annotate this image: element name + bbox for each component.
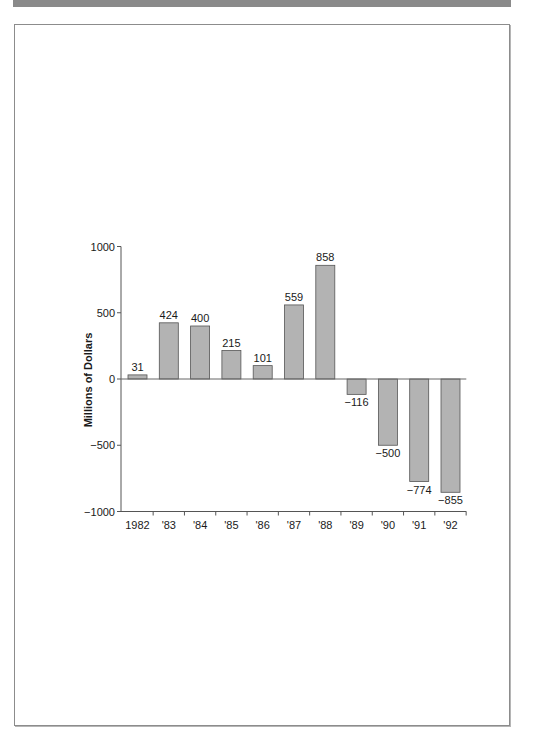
x-tick-label: '89 [349,519,363,531]
bar-value-label: 858 [316,251,334,263]
bar-value-label: −855 [438,494,463,506]
x-tick-label: '90 [381,519,395,531]
bar-value-label: −774 [407,484,432,496]
x-tick-label: '84 [193,519,207,531]
x-tick-label: '86 [256,519,270,531]
bar [378,379,397,445]
bar [441,379,460,492]
y-tick-label: −1000 [84,506,115,518]
bar [159,323,178,379]
x-tick-label: '83 [162,519,176,531]
y-tick-label: −500 [90,439,115,451]
bar [347,379,366,394]
y-axis-label: Millions of Dollars [82,333,94,428]
bar [410,379,429,482]
x-tick-label: '91 [412,519,426,531]
x-tick-label: '85 [224,519,238,531]
bar [285,305,304,379]
x-tick-label: '87 [287,519,301,531]
y-tick-label: 1000 [91,241,115,253]
bar-value-label: 559 [285,291,303,303]
bar-value-label: 31 [131,361,143,373]
bar [316,265,335,379]
bar-value-label: 424 [160,309,178,321]
bar [191,326,210,379]
y-tick-label: 0 [109,373,115,385]
bar-value-label: 215 [222,337,240,349]
x-tick-label: '92 [443,519,457,531]
bar-value-label: 101 [254,352,272,364]
bar-chart: 10005000−500−1000 31424400215101559858−1… [0,0,545,739]
bar [253,366,272,379]
bar-value-label: −116 [345,396,369,408]
bar-value-label: 400 [191,312,209,324]
x-tick-label: 1982 [125,519,149,531]
y-tick-label: 500 [97,307,115,319]
bar [128,375,147,379]
bar-value-label: −500 [376,447,401,459]
x-tick-label: '88 [318,519,332,531]
bar [222,351,241,379]
